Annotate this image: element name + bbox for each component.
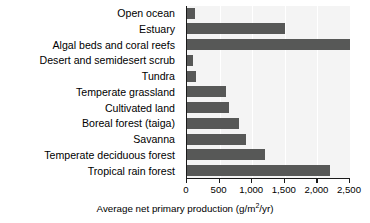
- x-axis-tick-mark: [186, 179, 187, 183]
- bar: [187, 102, 229, 113]
- x-axis-tick-label: 2,000: [304, 184, 328, 195]
- bar: [187, 71, 196, 82]
- x-axis-line: [186, 178, 350, 179]
- category-label: Savanna: [0, 132, 180, 146]
- category-label: Tropical rain forest: [0, 164, 180, 178]
- category-label: Cultivated land: [0, 101, 180, 115]
- bar-row: [187, 148, 350, 162]
- category-label: Estuary: [0, 22, 180, 36]
- category-label: Open ocean: [0, 6, 180, 20]
- category-label-column: Open ocean Estuary Algal beds and coral …: [0, 6, 180, 178]
- bar: [187, 165, 330, 176]
- category-label: Algal beds and coral reefs: [0, 38, 180, 52]
- bar-row: [187, 6, 350, 20]
- x-axis-tick-mark: [219, 179, 220, 183]
- x-axis-tick-mark: [316, 179, 317, 183]
- x-axis-title-main: Average net primary production (g/m: [97, 203, 256, 214]
- x-axis-tick-mark: [349, 179, 350, 183]
- x-axis-tick-label: 2,500: [337, 184, 361, 195]
- bar: [187, 55, 193, 66]
- bar: [187, 39, 350, 50]
- category-label: Boreal forest (taiga): [0, 116, 180, 130]
- bar-series: [187, 6, 350, 178]
- category-label: Temperate grassland: [0, 85, 180, 99]
- bar-row: [187, 132, 350, 146]
- bar-row: [187, 22, 350, 36]
- category-label: Temperate deciduous forest: [0, 148, 180, 162]
- bar-row: [187, 85, 350, 99]
- bar-row: [187, 116, 350, 130]
- bar: [187, 86, 226, 97]
- gridline: [350, 6, 351, 178]
- bar: [187, 8, 195, 19]
- x-axis-tick-label: 0: [183, 184, 188, 195]
- x-axis-title-tail: /yr): [259, 203, 273, 214]
- plot-area: [186, 6, 350, 178]
- bar-row: [187, 164, 350, 178]
- net-primary-production-bar-chart: Open ocean Estuary Algal beds and coral …: [0, 0, 370, 223]
- x-axis-tick-label: 1,500: [272, 184, 296, 195]
- bar: [187, 23, 285, 34]
- bar-row: [187, 69, 350, 83]
- bar-row: [187, 53, 350, 67]
- x-axis-tick-label: 500: [211, 184, 227, 195]
- category-label: Tundra: [0, 69, 180, 83]
- bar-row: [187, 101, 350, 115]
- bar: [187, 118, 239, 129]
- category-label: Desert and semidesert scrub: [0, 53, 180, 67]
- x-axis-tick-mark: [284, 179, 285, 183]
- x-axis-tick-label: 1,000: [239, 184, 263, 195]
- bar: [187, 149, 265, 160]
- bar-row: [187, 38, 350, 52]
- x-axis-tick-mark: [251, 179, 252, 183]
- bar: [187, 134, 246, 145]
- x-axis-title: Average net primary production (g/m2/yr): [0, 203, 370, 214]
